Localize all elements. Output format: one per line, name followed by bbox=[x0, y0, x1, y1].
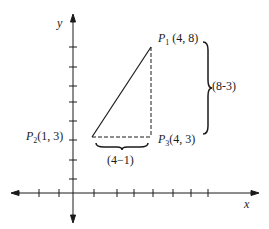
x-axis-label: x bbox=[244, 198, 249, 210]
vertical-brace bbox=[203, 42, 212, 134]
point-p2-label: P2(1, 3) bbox=[26, 130, 63, 145]
x-axis-arrow-right bbox=[251, 191, 259, 196]
vertical-difference-label: (8-3) bbox=[212, 80, 236, 92]
horizontal-difference-label: (4−1) bbox=[107, 154, 134, 166]
y-axis-label: y bbox=[57, 17, 62, 29]
p3-coords: (4, 3) bbox=[169, 132, 195, 146]
x-axis-arrow-left bbox=[11, 191, 19, 196]
p1-subscript: 1 bbox=[165, 38, 169, 47]
horizontal-brace bbox=[96, 143, 148, 150]
y-axis-arrow-down bbox=[71, 215, 76, 223]
p2-coords: (1, 3) bbox=[37, 129, 63, 143]
point-p3-label: P3(4, 3) bbox=[158, 133, 195, 148]
y-axis-arrow-up bbox=[71, 14, 76, 22]
p1-coords: (4, 8) bbox=[172, 31, 198, 45]
point-p1-label: P1 (4, 8) bbox=[158, 32, 198, 47]
coordinate-plane bbox=[0, 0, 269, 229]
hypotenuse bbox=[92, 47, 151, 137]
